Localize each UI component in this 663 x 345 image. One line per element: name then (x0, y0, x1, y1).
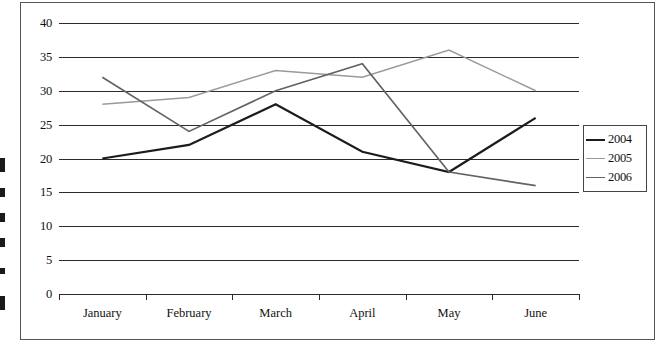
x-axis-tick (232, 294, 233, 300)
x-axis-tick (579, 294, 580, 300)
cropped-edge-fragment (0, 238, 5, 247)
legend-item-2005: 2005 (586, 149, 643, 168)
cropped-edge-fragment (0, 268, 5, 274)
series-line-2006 (102, 64, 535, 186)
y-axis-tick-label: 5 (46, 253, 52, 268)
legend-line-icon-2006 (586, 177, 605, 178)
x-axis-tick (406, 294, 407, 300)
cropped-edge-fragment (0, 188, 5, 197)
y-axis-tick-label: 35 (40, 49, 52, 64)
legend-label-2006: 2006 (608, 171, 632, 184)
x-axis-tick-label: June (524, 306, 547, 321)
x-axis-tick-label: March (259, 306, 292, 321)
y-axis-tick-label: 40 (40, 16, 52, 31)
cropped-edge-fragment (0, 213, 5, 222)
legend-label-2004: 2004 (608, 133, 632, 146)
y-axis-tick-label: 15 (40, 185, 52, 200)
legend-label-2005: 2005 (608, 152, 632, 165)
legend: 2004 2005 2006 (583, 125, 647, 192)
cropped-edge-fragment (0, 158, 5, 172)
y-axis-tick-label: 0 (46, 287, 52, 302)
x-axis-tick (319, 294, 320, 300)
legend-line-icon-2005 (586, 158, 605, 159)
legend-line-icon-2004 (586, 139, 605, 141)
y-axis-tick-label: 10 (40, 219, 52, 234)
cropped-edge-fragment (0, 296, 5, 310)
legend-item-2004: 2004 (586, 130, 643, 149)
y-axis-tick-label: 30 (40, 83, 52, 98)
x-axis-tick-label: May (438, 306, 461, 321)
plot-area: 0510152025303540 JanuaryFebruaryMarchApr… (59, 23, 579, 294)
series-line-2004 (102, 104, 535, 172)
legend-item-2006: 2006 (586, 168, 643, 187)
y-axis-tick-label: 25 (40, 117, 52, 132)
x-axis-tick (59, 294, 60, 300)
chart-frame: 0510152025303540 JanuaryFebruaryMarchApr… (20, 2, 655, 340)
x-axis-tick-label: April (349, 306, 375, 321)
x-axis-tick-label: January (83, 306, 122, 321)
x-axis-tick (492, 294, 493, 300)
chart-screenshot: 0510152025303540 JanuaryFebruaryMarchApr… (0, 0, 663, 345)
x-axis-tick-label: February (166, 306, 211, 321)
series-lines-group (59, 23, 579, 294)
plot-wrapper: 0510152025303540 JanuaryFebruaryMarchApr… (21, 3, 656, 341)
x-axis-tick (146, 294, 147, 300)
y-axis-tick-label: 20 (40, 151, 52, 166)
